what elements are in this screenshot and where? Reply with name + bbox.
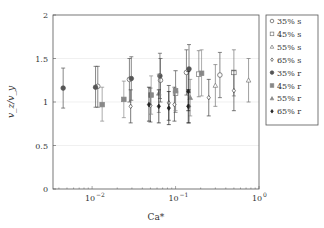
scatter-chart: 00.511.52 10−210−1100 Ca* v_z/v_y 35% s4… — [0, 0, 324, 228]
x-tick-exponent: 0 — [263, 191, 267, 198]
legend: 35% s45% s55% s65% s35% r45% r55% r65% r — [266, 15, 318, 125]
legend-label: 65% r — [277, 107, 301, 116]
series-55-s — [213, 59, 251, 107]
legend-label: 45% s — [277, 30, 301, 39]
x-axis-ticks: 10−210−1100 — [59, 186, 267, 203]
y-tick-label: 0.5 — [35, 142, 48, 151]
grid-lines — [53, 59, 259, 146]
legend-label: 55% r — [277, 94, 301, 103]
x-tick-exponent: −2 — [96, 191, 105, 198]
x-tick-label: 10 — [85, 194, 95, 203]
x-tick-label: 10 — [252, 194, 262, 203]
legend-label: 35% s — [277, 17, 301, 26]
series-45-s — [173, 50, 236, 113]
data-points — [61, 45, 251, 125]
legend-label: 35% r — [277, 69, 301, 78]
series-65-r — [147, 72, 190, 125]
x-axis-label: Ca* — [148, 212, 165, 222]
legend-label: 55% s — [277, 43, 301, 52]
y-tick-label: 1.5 — [35, 55, 48, 64]
y-tick-label: 0 — [43, 185, 48, 194]
x-tick-exponent: −1 — [180, 191, 189, 198]
x-tick-label: 10 — [168, 194, 178, 203]
legend-label: 45% r — [277, 82, 301, 91]
y-tick-label: 1 — [43, 98, 48, 107]
y-axis-label: v_z/v_y — [6, 85, 17, 118]
legend-label: 65% s — [277, 56, 301, 65]
y-tick-label: 2 — [43, 11, 48, 20]
